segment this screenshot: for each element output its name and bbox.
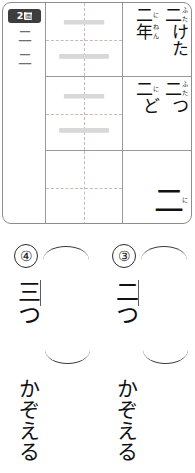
vocabulary-row: 二ふたけた 二に年ねん [123,3,191,77]
kanji-reading: 二 [17,29,31,47]
vocab-furigana: に [153,6,160,23]
vocab-kanji: 二 [162,6,182,23]
vocab-kanji-second: 年 [134,23,154,40]
practice-cell-empty[interactable] [46,151,122,224]
exercise-verb-text: かぞえる [14,378,41,473]
vocabulary-row: 二ふたつ 二にど [123,77,191,151]
trace-kanji-outline [46,151,122,224]
trace-kanji-outline: 二 [46,3,122,76]
exercise-item-3: ③ 二つ かぞえる [98,232,195,473]
vocabulary-word-futaketa: 二ふたけた [163,6,188,57]
answer-writing-rule [138,280,139,306]
vocab-okurigana: ど [141,97,159,114]
vocab-furigana: ふた [181,6,188,23]
kanji-reading: 二 [17,52,31,70]
vocab-furigana: に [181,185,188,215]
practice-cell[interactable]: 二 [46,77,122,151]
exercise-answer-blank[interactable]: 二つ [112,280,140,342]
trace-kanji-outline: 二 [46,77,122,150]
exercise-number-badge: ③ [112,244,136,268]
vocab-kanji: 二 [134,80,154,97]
vocabulary-word-ninen: 二に年ねん [134,6,159,40]
vocabulary-word-ni-large: 二に [151,185,189,215]
vocabulary-row: 二に [123,151,191,224]
brace-top-icon [141,246,187,260]
exercise-answer-text: 二つ [113,280,139,326]
vocab-okurigana: つ [170,97,188,114]
vocab-kanji: 二 [149,185,184,215]
vocab-furigana: に [153,80,160,97]
vocabulary-word-futatsu: 二ふたつ [163,80,188,114]
brace-bottom-icon [143,350,188,364]
vocab-furigana: ふた [181,80,188,97]
exercise-header: ③ [98,240,195,274]
exercise-item-4: ④ 三つ かぞえる [0,232,97,473]
stroke-count-number: 2 [17,11,24,21]
kanji-info-column: 2 画 二 二 [3,3,45,223]
vocab-okurigana: けた [170,23,188,57]
practice-cell[interactable]: 二 [46,3,122,77]
vocab-furigana-second: ねん [153,23,160,40]
stroke-count-unit-icon: 画 [24,12,32,20]
exercise-number-badge: ④ [14,244,38,268]
exercise-section: ④ 三つ かぞえる ③ 二つ かぞえる [0,232,195,473]
exercise-header: ④ [0,240,97,274]
exercise-answer-blank[interactable]: 三つ [14,280,42,342]
stroke-count-badge: 2 画 [8,9,41,23]
brace-top-icon [43,246,89,260]
exercise-answer-text: 三つ [15,280,41,326]
practice-grid: 二 二 [45,3,123,223]
brace-bottom-icon [45,350,90,364]
vocab-kanji: 二 [134,6,154,23]
vocabulary-word-nido: 二にど [134,80,159,114]
answer-writing-rule [40,280,41,306]
vocabulary-column: 二ふたけた 二に年ねん 二ふたつ 二にど 二に [123,3,191,223]
vocab-kanji: 二 [162,80,182,97]
kanji-readings-list: 二 二 [3,29,45,70]
kanji-card: 2 画 二 二 二 二 二ふたけた [2,2,192,224]
exercise-verb-text: かぞえる [112,378,139,473]
